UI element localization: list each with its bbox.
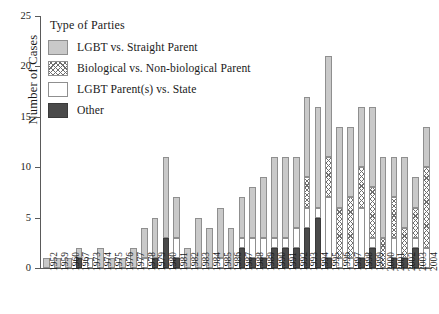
bar-column [358,107,365,268]
y-axis-tick-label: 20 [5,61,31,71]
y-axis-tick-label: 10 [5,162,31,172]
bar-column [347,127,354,268]
x-axis-tick-label: 1995 [332,252,341,271]
x-axis-tick-label: 1967 [82,252,91,271]
bar-segment [325,56,332,157]
legend-label-other: Other [77,105,104,117]
x-axis-tick-label: 1989 [267,252,276,271]
x-axis-tick-label: 1982 [191,252,200,271]
legend-item-other: Other [48,101,300,120]
x-axis-tick-label: 1974 [104,252,113,271]
bar-column [336,127,343,268]
bar-segment [423,167,430,248]
bar-column [315,107,322,268]
x-axis-tick-label: 1978 [148,252,157,271]
x-axis-tick-label: 2002 [408,252,417,271]
bar-segment [347,127,354,198]
legend-swatch-lgbt-parents-vs-state [48,82,68,97]
bar-segment [249,187,256,237]
x-axis-tick-label: 1994 [321,252,330,271]
x-axis-tick-label: 1992 [300,252,309,271]
x-axis-tick-label: 2000 [387,252,396,271]
chart-legend: Type of Parties LGBT vs. Straight Parent… [48,18,300,122]
bar-segment [315,208,322,218]
x-axis-tick-label: 1987 [245,252,254,271]
y-axis-tick-label: 0 [5,263,31,273]
x-axis-tick-label: 1997 [354,252,363,271]
bar-segment [315,107,322,208]
legend-label-lgbt-vs-straight-parent: LGBT vs. Straight Parent [77,42,198,54]
legend-label-lgbt-parents-vs-state: LGBT Parent(s) vs. State [77,84,196,96]
x-axis-tick-label: 1973 [93,252,102,271]
x-axis-tick-label: 1999 [376,252,385,271]
bar-segment [358,167,365,207]
y-axis-tick-label: 25 [5,11,31,21]
bar-segment [217,208,224,258]
bar-segment [391,197,398,237]
bar-segment [293,157,300,228]
bar-segment [173,197,180,237]
x-axis-tick-label: 1959 [61,252,70,271]
y-axis-tick-label: 5 [5,213,31,223]
x-axis-tick-label: 1985 [224,252,233,271]
bar-segment [391,157,398,197]
bar-segment [304,97,311,178]
y-axis-tick [35,268,41,269]
x-axis-tick-label: 1998 [365,252,374,271]
bar-column [325,56,332,268]
bar-segment [239,197,246,237]
legend-title: Type of Parties [50,18,300,33]
x-axis-tick-label: 1993 [310,252,319,271]
bar-segment [412,238,419,248]
y-axis-tick-label: 15 [5,112,31,122]
bar-segment [401,157,408,228]
bar-segment [271,238,278,248]
x-axis-tick-label: 1976 [126,252,135,271]
x-axis-labels: 1952195919601967197319741975197619771978… [41,271,432,314]
x-axis-tick-label: 1984 [213,252,222,271]
x-axis-tick-label: 1977 [137,252,146,271]
bar-segment [239,238,246,248]
x-axis-tick-label: 1991 [289,252,298,271]
x-axis-tick-label: 1988 [256,252,265,271]
bar-segment [358,208,365,258]
bar-segment [293,228,300,248]
bar-segment [336,127,343,208]
x-axis-tick-label: 1952 [50,252,59,271]
bar-segment [163,157,170,238]
x-axis-tick-label: 1990 [278,252,287,271]
bar-segment [260,177,267,237]
x-axis-tick-label: 1986 [234,252,243,271]
bar-segment [369,187,376,237]
bar-column [423,127,430,268]
bar-segment [282,238,289,248]
bar-segment [282,157,289,238]
bar-segment [412,208,419,238]
bar-segment [369,107,376,188]
x-axis-tick-label: 2004 [430,252,439,271]
x-axis-tick-label: 1960 [72,252,81,271]
legend-swatch-lgbt-vs-straight-parent [48,40,68,55]
bar-segment [325,197,332,257]
x-axis-tick-label: 1980 [169,252,178,271]
x-axis-tick-label: 1981 [180,252,189,271]
bar-column [369,107,376,268]
x-axis-tick-label: 1979 [158,252,167,271]
bar-segment [304,208,311,228]
bar-segment [325,157,332,197]
x-axis-tick-label: 2001 [397,252,406,271]
x-axis-tick-label: 1983 [202,252,211,271]
legend-item-lgbt-vs-straight-parent: LGBT vs. Straight Parent [48,38,300,57]
bar-segment [369,238,376,248]
bar-segment [304,177,311,207]
bar-segment [336,208,343,258]
x-axis-tick-label: 2003 [419,252,428,271]
legend-item-biological-vs-nonbiological-parent: Biological vs. Non-biological Parent [48,59,300,78]
bar-segment [271,157,278,238]
bar-segment [380,157,387,238]
x-axis-tick-label: 1996 [343,252,352,271]
x-axis-tick-label: 1975 [115,252,124,271]
legend-label-biological-vs-nonbiological-parent: Biological vs. Non-biological Parent [77,63,251,75]
bar-column [304,97,311,268]
